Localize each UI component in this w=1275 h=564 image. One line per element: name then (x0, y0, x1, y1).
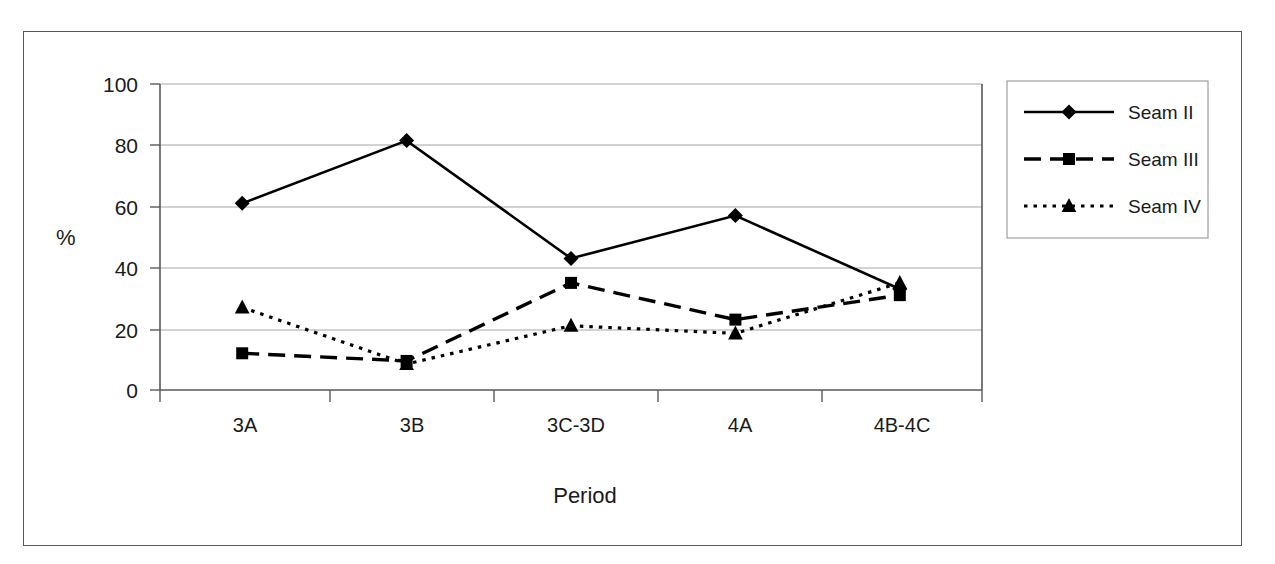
legend-label-1: Seam III (1128, 149, 1199, 170)
series-seam-ii (235, 133, 908, 296)
y-tick-label-60: 60 (115, 196, 138, 219)
x-category-label-0: 3A (233, 414, 258, 436)
series-seam-iv (235, 275, 907, 370)
data-point-marker (235, 196, 250, 211)
x-category-label-3: 4A (728, 414, 753, 436)
data-point-marker (728, 325, 743, 339)
legend: Seam II Seam III Seam IV (1007, 81, 1208, 238)
y-tick-label-40: 40 (115, 257, 138, 280)
y-tick-label-100: 100 (103, 73, 138, 96)
legend-sample-marker (1063, 153, 1075, 165)
y-tickmarks (150, 84, 160, 390)
y-tick-label-80: 80 (115, 134, 138, 157)
data-point-marker (729, 314, 741, 326)
line-chart: 100 80 60 40 20 0 % 3A 3B 3C-3D 4A 4B-4C… (0, 0, 1275, 564)
data-point-marker (892, 275, 907, 289)
data-point-marker (728, 208, 743, 223)
axes-lines (160, 84, 982, 390)
chart-figure: 100 80 60 40 20 0 % 3A 3B 3C-3D 4A 4B-4C… (0, 0, 1275, 564)
legend-label-2: Seam IV (1128, 196, 1201, 217)
data-point-marker (565, 277, 577, 289)
series-line (242, 141, 900, 289)
x-category-label-1: 3B (400, 414, 424, 436)
gridlines (160, 84, 982, 330)
legend-label-0: Seam II (1128, 102, 1193, 123)
x-category-label-4: 4B-4C (874, 414, 931, 436)
data-point-marker (235, 299, 250, 313)
x-axis-title: Period (553, 483, 617, 508)
data-point-marker (236, 347, 248, 359)
x-category-label-2: 3C-3D (547, 414, 605, 436)
data-point-marker (894, 289, 906, 301)
y-tick-label-0: 0 (126, 379, 138, 402)
x-tickmarks (160, 390, 982, 402)
data-point-marker (564, 318, 579, 332)
y-axis-title: % (56, 225, 76, 250)
y-tick-label-20: 20 (115, 319, 138, 342)
data-series-layer (235, 133, 908, 370)
